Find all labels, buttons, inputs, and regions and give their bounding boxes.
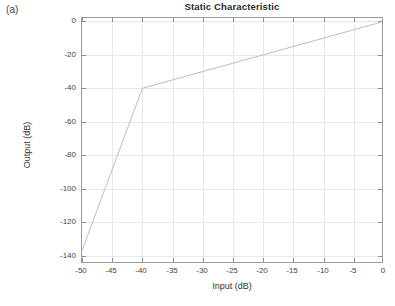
x-axis-tick-label: -40 <box>135 266 147 275</box>
plot-inner <box>82 18 382 262</box>
x-axis-tick-label: -10 <box>317 266 329 275</box>
y-axis-tick-label: -60 <box>64 117 76 126</box>
plot-area <box>81 17 383 263</box>
chart-figure: Static Characteristic -50-45-40-35-30-25… <box>0 0 395 306</box>
chart-title: Static Characteristic <box>81 1 383 12</box>
y-axis-tick-label: -140 <box>60 251 76 260</box>
x-axis-tick-label: -50 <box>75 266 87 275</box>
x-axis-tick-label: -30 <box>196 266 208 275</box>
x-axis-tick-label: 0 <box>381 266 385 275</box>
x-axis-tick-label: -20 <box>256 266 268 275</box>
data-series-layer <box>82 18 382 262</box>
y-axis-tick-label: -20 <box>64 50 76 59</box>
y-axis-tick-label: -40 <box>64 83 76 92</box>
y-axis-label: Output (dB) <box>22 70 32 220</box>
x-axis-tick-label: -45 <box>105 266 117 275</box>
x-axis-label: Input (dB) <box>81 281 383 291</box>
y-axis-tick-label: -100 <box>60 184 76 193</box>
x-axis-tick-label: -25 <box>226 266 238 275</box>
series-line-static-characteristic <box>82 21 382 250</box>
x-axis-tick-label: -35 <box>166 266 178 275</box>
x-axis-tick-label: -5 <box>349 266 356 275</box>
y-axis-tick-label: -80 <box>64 150 76 159</box>
y-axis-tick-label: -120 <box>60 217 76 226</box>
x-axis-tick-label: -15 <box>286 266 298 275</box>
y-axis-tick-label: 0 <box>72 16 76 25</box>
